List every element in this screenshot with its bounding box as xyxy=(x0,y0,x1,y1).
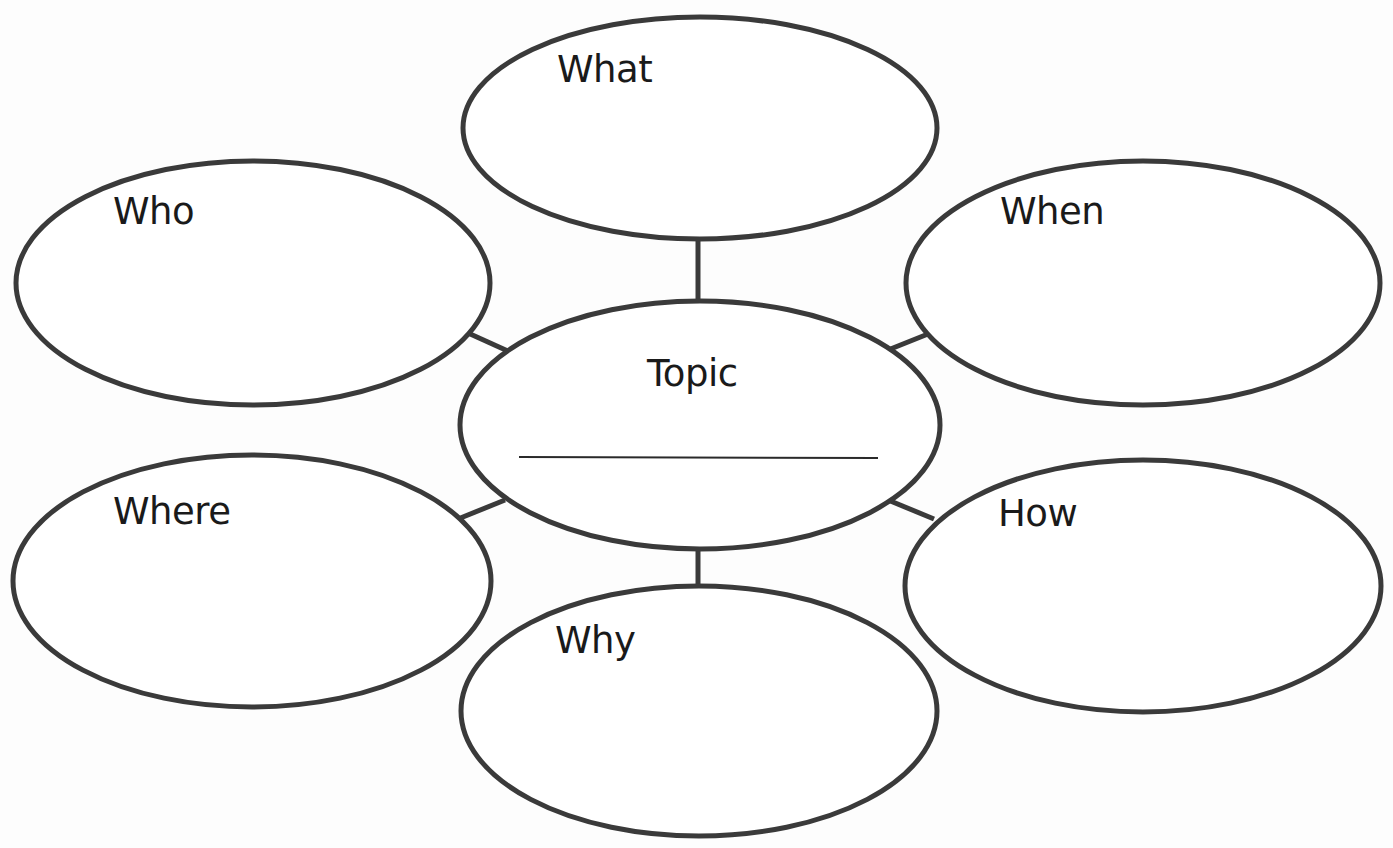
how-oval[interactable] xyxy=(905,460,1381,712)
topic-answer-line[interactable] xyxy=(519,457,878,458)
web-diagram: What Who When Where How Why xyxy=(0,0,1393,848)
where-label: Where xyxy=(113,490,230,533)
node-what[interactable]: What xyxy=(463,17,937,239)
why-oval[interactable] xyxy=(461,586,937,836)
connector-topic-when xyxy=(888,334,928,350)
who-label: Who xyxy=(113,190,194,233)
node-topic[interactable]: Topic xyxy=(460,301,940,549)
what-oval[interactable] xyxy=(463,17,937,239)
connector-topic-where xyxy=(458,500,505,519)
what-label: What xyxy=(557,48,652,91)
node-why[interactable]: Why xyxy=(461,586,937,836)
when-label: When xyxy=(1000,190,1104,233)
when-oval[interactable] xyxy=(906,161,1380,405)
topic-label: Topic xyxy=(646,352,738,395)
worksheet-page: What Who When Where How Why xyxy=(0,0,1393,848)
topic-oval[interactable] xyxy=(460,301,940,549)
connector-topic-who xyxy=(468,333,510,352)
node-who[interactable]: Who xyxy=(16,161,490,405)
connector-topic-how xyxy=(888,500,934,519)
who-oval[interactable] xyxy=(16,161,490,405)
node-when[interactable]: When xyxy=(906,161,1380,405)
why-label: Why xyxy=(555,619,635,662)
where-oval[interactable] xyxy=(13,455,491,707)
node-how[interactable]: How xyxy=(905,460,1381,712)
how-label: How xyxy=(998,492,1077,535)
node-where[interactable]: Where xyxy=(13,455,491,707)
